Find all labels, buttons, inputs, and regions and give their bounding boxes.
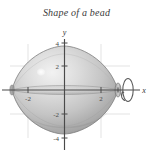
plot-area: -2 2 4 2 -2 -4 y x <box>0 22 153 163</box>
y-tick-label-4: 4 <box>56 40 60 48</box>
figure-title: Shape of a bead <box>0 7 153 18</box>
x-tick-label--2: -2 <box>25 95 31 103</box>
y-axis-label: y <box>62 28 67 37</box>
y-tick-label--4: -4 <box>53 135 59 143</box>
y-tick-label--2: -2 <box>53 111 59 119</box>
x-tick-label-2: 2 <box>99 95 103 103</box>
figure-container: Shape of a bead <box>0 0 153 163</box>
x-axis-label: x <box>141 86 146 95</box>
y-tick-label-2: 2 <box>56 63 60 71</box>
specular-highlight-icon <box>36 68 45 76</box>
plot-svg: -2 2 4 2 -2 -4 y x <box>0 22 153 163</box>
